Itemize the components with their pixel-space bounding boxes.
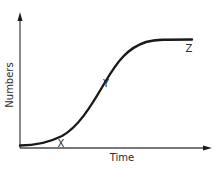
x-axis-label: Time: [109, 152, 134, 163]
growth-curve: [20, 40, 192, 146]
annotation-z: Z: [186, 43, 193, 54]
y-axis-arrow-icon: [18, 12, 23, 21]
sigmoid-growth-diagram: Time Numbers X Y Z: [0, 0, 218, 169]
x-axis-arrow-icon: [203, 146, 212, 151]
y-axis-label: Numbers: [4, 62, 15, 107]
annotation-y: Y: [102, 78, 110, 89]
annotation-x: X: [58, 138, 65, 149]
